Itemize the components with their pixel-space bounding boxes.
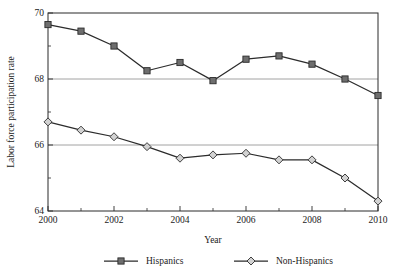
line-chart: 70686664 200020022004200620082010 Year L… — [0, 0, 395, 274]
data-point-marker-diamond — [341, 174, 349, 182]
data-point-marker-diamond — [308, 156, 316, 164]
y-axis-title: Labor force participation rate — [6, 56, 16, 168]
x-tick-label: 2000 — [39, 215, 58, 225]
data-point-marker-diamond — [77, 126, 85, 134]
data-point-marker-diamond — [374, 197, 382, 205]
data-point-marker-square — [210, 78, 216, 84]
data-point-marker-square — [243, 56, 249, 62]
y-tick-label: 68 — [35, 74, 45, 84]
data-point-marker-square — [118, 258, 124, 264]
legend-item-non-hispanics[interactable]: Non-Hispanics — [234, 256, 333, 266]
y-tick-label: 66 — [35, 140, 45, 150]
data-point-marker-square — [375, 92, 381, 98]
data-point-marker-square — [78, 28, 84, 34]
data-point-marker-diamond — [176, 154, 184, 162]
data-point-marker-square — [45, 21, 51, 27]
data-point-marker-square — [177, 59, 183, 65]
data-point-marker-diamond — [110, 133, 118, 141]
data-point-marker-diamond — [44, 118, 52, 126]
series-hispanics — [45, 21, 381, 98]
y-axis-ticks: 70686664 — [35, 8, 54, 216]
x-tick-label: 2002 — [105, 215, 124, 225]
chart-figure: 70686664 200020022004200620082010 Year L… — [0, 0, 395, 274]
gridlines — [48, 79, 378, 145]
data-point-marker-square — [342, 76, 348, 82]
series-line — [48, 122, 378, 201]
x-tick-label: 2004 — [171, 215, 190, 225]
x-tick-label: 2006 — [237, 215, 256, 225]
legend-item-hispanics[interactable]: Hispanics — [104, 256, 184, 266]
y-tick-label: 70 — [35, 8, 45, 18]
series-layer — [44, 21, 382, 205]
x-tick-label: 2010 — [369, 215, 388, 225]
data-point-marker-square — [309, 61, 315, 67]
data-point-marker-diamond — [242, 149, 250, 157]
data-point-marker-diamond — [247, 257, 255, 265]
data-point-marker-diamond — [275, 156, 283, 164]
data-point-marker-diamond — [143, 143, 151, 151]
data-point-marker-square — [144, 68, 150, 74]
legend-label: Hispanics — [146, 256, 184, 266]
x-tick-label: 2008 — [303, 215, 322, 225]
data-point-marker-diamond — [209, 151, 217, 159]
x-axis-title: Year — [204, 235, 222, 245]
x-axis-ticks: 200020022004200620082010 — [39, 206, 388, 225]
data-point-marker-square — [276, 53, 282, 59]
series-non-hispanics — [44, 118, 382, 205]
chart-legend: HispanicsNon-Hispanics — [104, 256, 333, 266]
data-point-marker-square — [111, 43, 117, 49]
plot-frame — [48, 13, 378, 211]
series-line — [48, 25, 378, 96]
legend-label: Non-Hispanics — [276, 256, 333, 266]
